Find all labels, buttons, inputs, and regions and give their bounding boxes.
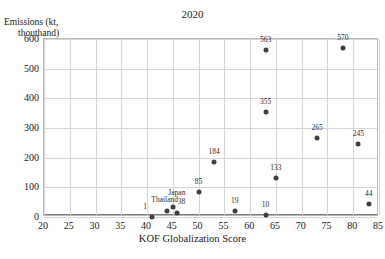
data-point-label: Japan [168,188,185,197]
gridline-vertical [70,39,71,215]
data-point-label: 245 [353,129,364,138]
data-point [175,210,180,215]
gridline-vertical [250,39,251,215]
data-point [263,47,268,52]
data-point [150,214,155,219]
y-axis-tick-label: 400 [0,92,39,103]
x-axis-tick-label: 85 [363,220,385,231]
gridline-vertical [276,39,277,215]
y-axis-tick-label: 300 [0,122,39,133]
gridline-vertical [224,39,225,215]
y-axis-tick-label: 100 [0,181,39,192]
data-point [356,142,361,147]
scatter-chart: Emissions (kt, thouthand) 2020 1Thailand… [0,0,385,259]
data-point [232,209,237,214]
gridline-vertical [353,39,354,215]
data-point [340,45,345,50]
data-point-label: 19 [231,196,239,205]
gridline-vertical [96,39,97,215]
x-axis-title: KOF Globalization Score [0,233,385,244]
data-point-label: 44 [365,189,373,198]
gridline-vertical [147,39,148,215]
gridline-horizontal [44,217,377,218]
data-point [196,189,201,194]
data-point-label: 38 [178,197,186,206]
data-point [170,205,175,210]
data-point-label: 563 [260,35,271,44]
data-point [164,209,169,214]
data-point-label: 133 [270,163,281,172]
data-point [263,109,268,114]
y-axis-tick-label: 200 [0,151,39,162]
gridline-vertical [44,39,45,215]
data-point-label: 355 [260,97,271,106]
y-axis-tick-label: 600 [0,33,39,44]
data-point-label: 85 [195,177,203,186]
gridline-horizontal [44,98,377,99]
data-point [273,175,278,180]
chart-title: 2020 [0,8,385,20]
gridline-vertical [327,39,328,215]
data-point-label: 184 [208,147,219,156]
data-point [366,201,371,206]
data-point [212,160,217,165]
gridline-horizontal [44,158,377,159]
gridline-vertical [379,39,380,215]
plot-area: 1ThailandJapan38851841910355563133265570… [43,38,378,216]
data-point [315,136,320,141]
gridline-horizontal [44,187,377,188]
gridline-horizontal [44,69,377,70]
data-point-label: 265 [312,123,323,132]
gridline-vertical [121,39,122,215]
y-axis-tick-label: 500 [0,62,39,73]
data-point-label: 10 [262,200,270,209]
gridline-horizontal [44,128,377,129]
gridline-vertical [302,39,303,215]
data-point-label: 570 [337,33,348,42]
data-point [263,212,268,217]
data-point-label: 1 [143,202,147,211]
gridline-horizontal [44,39,377,40]
